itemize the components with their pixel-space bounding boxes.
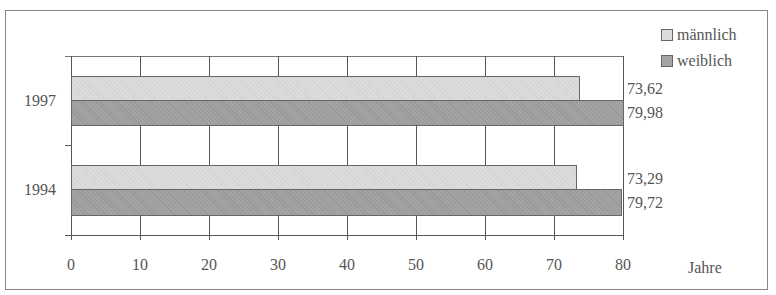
x-tick-label: 10 [120,256,160,274]
x-tick-label: 30 [258,256,298,274]
value-label-1994-male: 73,29 [627,170,663,188]
x-tick-label: 80 [603,256,643,274]
x-axis-title: Jahre [688,259,722,277]
x-tick [140,235,141,240]
x-tick-label: 50 [396,256,436,274]
x-tick [278,235,279,240]
x-tick [623,235,624,240]
value-label-1997-male: 73,62 [627,80,663,98]
legend: männlich weiblich [661,22,737,74]
x-axis [65,235,624,236]
x-tick [347,235,348,240]
value-label-1997-female: 79,98 [627,104,663,122]
bar-1994-female [71,189,622,216]
x-tick [554,235,555,240]
x-tick [71,235,72,240]
x-tick-label: 40 [327,256,367,274]
legend-label-male: männlich [677,26,737,44]
female-swatch-icon [661,55,673,67]
legend-item-female: weiblich [661,48,737,74]
category-label-1994: 1994 [6,181,56,199]
plot-top-border [65,56,624,57]
x-tick-label: 60 [465,256,505,274]
x-tick-label: 20 [189,256,229,274]
category-label-1997: 1997 [6,92,56,110]
bar-1994-male [71,165,577,190]
gridline-80 [623,56,624,235]
value-label-1994-female: 79,72 [627,194,663,212]
x-tick [485,235,486,240]
bar-1997-male [71,76,580,101]
legend-item-male: männlich [661,22,737,48]
x-tick-label: 70 [534,256,574,274]
x-tick [209,235,210,240]
legend-label-female: weiblich [677,52,732,70]
male-swatch-icon [661,29,673,41]
plot-area [71,56,624,235]
x-tick [416,235,417,240]
x-tick-label: 0 [51,256,91,274]
y-tick [65,145,71,146]
bar-1997-female [71,100,624,126]
